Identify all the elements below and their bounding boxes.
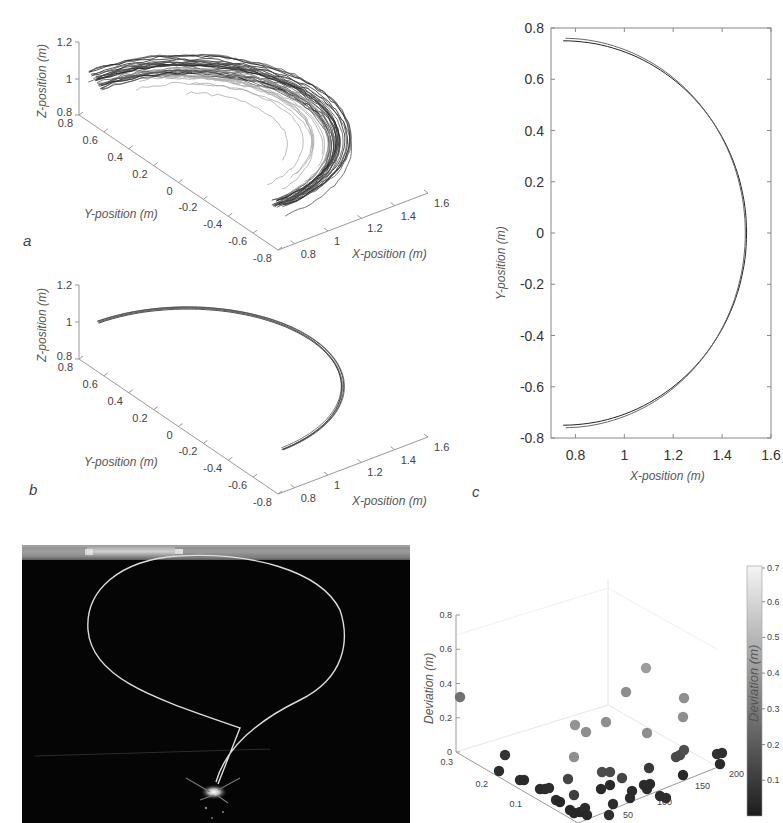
panel-a-3d-trajectories: 1.2 1 0.8 Z-position (m) 0.80.60.40.20-0…	[23, 36, 449, 264]
trajectory-curve	[97, 64, 336, 200]
scatter-point	[661, 793, 671, 803]
b-ytick: 0.6	[83, 378, 98, 390]
scatter-xtick: 50	[623, 810, 633, 820]
scatter-point	[608, 799, 618, 809]
b-ztick-1: 1	[66, 316, 72, 328]
c-xtick: 1.6	[761, 447, 781, 463]
scatter-point	[500, 750, 510, 760]
scatter-point	[455, 692, 465, 702]
b-ztick-1.2: 1.2	[57, 279, 72, 291]
b-xtick: 0.8	[301, 492, 316, 504]
trajectory-photo	[22, 545, 410, 823]
colorbar-tick: 0.5	[767, 632, 780, 642]
scatter-point	[563, 774, 573, 784]
a-xtick: 1.2	[367, 222, 382, 234]
scatter-zlabel: Deviation (m)	[422, 653, 436, 724]
trajectory-curve	[98, 308, 342, 449]
trajectory-curve	[99, 309, 342, 450]
scatter-point	[604, 810, 614, 820]
scatter-point	[717, 748, 727, 758]
c-panel-label: c	[472, 483, 480, 500]
b-ytick: 0	[166, 429, 172, 441]
deviation-3d-scatter: 0.80.60.40.20 Deviation (m) 0.30.20.1 50…	[422, 563, 780, 823]
a-ylabel: Y-position (m)	[84, 207, 158, 221]
a-ytick: 0.8	[58, 117, 73, 129]
b-ytick: -0.6	[228, 479, 247, 491]
scatter-point	[582, 810, 592, 820]
scatter-point	[569, 752, 579, 762]
colorbar-tick: 0.1	[767, 775, 780, 785]
scatter-point	[642, 728, 652, 738]
c-xtick: 1	[620, 447, 628, 463]
a-xtick: 1	[334, 235, 340, 247]
b-ytick: 0.2	[132, 412, 147, 424]
b-zlabel: Z-position (m)	[35, 288, 49, 363]
scatter-point	[519, 775, 529, 785]
b-panel-label: b	[29, 481, 37, 498]
trajectory-curve	[193, 72, 328, 195]
b-xtick: 1.4	[401, 454, 416, 466]
b-xlabel: X-position (m)	[351, 494, 427, 508]
b-ylabel: Y-position (m)	[84, 455, 158, 469]
scatter-point	[494, 766, 504, 776]
scatter-point	[625, 793, 635, 803]
scatter-point	[641, 663, 651, 673]
a-xtick: 1.4	[401, 210, 416, 222]
c-ytick: 0.2	[525, 174, 545, 190]
c-xtick: 1.4	[712, 447, 732, 463]
a-ytick: -0.2	[178, 201, 197, 213]
b-xtick: 1.6	[434, 441, 449, 453]
trajectory-curve	[100, 72, 331, 206]
scatter-point	[605, 767, 615, 777]
a-zlabel: Z-position (m)	[35, 44, 49, 119]
panel-c-2d-trajectory: 0.80.60.40.20-0.2-0.4-0.6-0.8 0.811.21.4…	[472, 20, 781, 500]
a-ytick: 0.4	[107, 151, 122, 163]
scatter-point	[581, 727, 591, 737]
a-ztick-1.2: 1.2	[57, 36, 72, 48]
scatter-point	[639, 780, 649, 790]
scatter-point	[678, 712, 688, 722]
c-trajectory-path-2	[566, 38, 746, 428]
colorbar-tick: 0.3	[767, 704, 780, 714]
b-ytick: 0.4	[107, 395, 122, 407]
a-ytick: 0.2	[132, 168, 147, 180]
c-xtick: 0.8	[566, 447, 586, 463]
colorbar-tick: 0.2	[767, 740, 780, 750]
panel-b-3d-trajectories: 1.2 1 0.8 Z-position (m) 0.80.60.40.20-0…	[29, 279, 449, 508]
colorbar-label: Deviation (m)	[746, 645, 761, 722]
b-ytick: 0.8	[58, 361, 73, 373]
scatter-ztick: 0.8	[439, 610, 452, 620]
scatter-point	[678, 770, 688, 780]
scatter-ztick: 0.2	[439, 713, 452, 723]
colorbar-tick: 0.6	[767, 597, 780, 607]
b-ytick: -0.4	[203, 462, 222, 474]
scatter-point	[644, 763, 654, 773]
a-ytick: -0.6	[228, 235, 247, 247]
a-ytick: 0	[166, 185, 172, 197]
c-ytick: 0.8	[525, 20, 545, 36]
colorbar-tick: 0.4	[767, 668, 780, 678]
scatter-point	[555, 797, 565, 807]
scatter-point	[596, 784, 606, 794]
b-ytick: -0.2	[178, 445, 197, 457]
figure-canvas: 1.2 1 0.8 Z-position (m) 0.80.60.40.20-0…	[0, 0, 783, 823]
trajectory-curve	[186, 92, 287, 160]
scatter-point	[544, 783, 554, 793]
c-ytick: -0.6	[520, 379, 544, 395]
b-xtick: 1	[334, 479, 340, 491]
b-xtick: 1.2	[367, 466, 382, 478]
scatter-point	[679, 745, 689, 755]
c-ytick: -0.4	[520, 328, 544, 344]
scatter-point	[605, 780, 615, 790]
trajectory-curve	[99, 308, 341, 448]
c-ytick: 0.4	[525, 123, 545, 139]
c-xtick: 1.2	[663, 447, 683, 463]
scatter-point	[570, 720, 580, 730]
trajectory-curve	[97, 307, 343, 449]
scatter-ytick: 0.3	[440, 757, 453, 767]
scatter-point	[601, 717, 611, 727]
scatter-xtick: 200	[729, 769, 744, 779]
trajectory-curve	[97, 307, 344, 450]
scatter-ztick: 0	[447, 747, 452, 757]
scatter-point	[569, 790, 579, 800]
